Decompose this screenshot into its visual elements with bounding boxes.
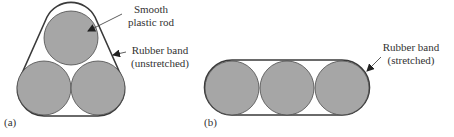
rod-left	[205, 61, 259, 115]
rod-right	[315, 61, 369, 115]
rubber-band-diagram: Smooth plastic rod Rubber band (unstretc…	[0, 0, 454, 137]
rod-bottom-right	[71, 61, 125, 115]
panel-b: Rubber band (stretched) (b)	[204, 41, 440, 129]
panel-b-label: (b)	[204, 116, 217, 129]
label-band-a-line1: Rubber band	[132, 44, 189, 56]
panel-a-label: (a)	[4, 116, 17, 129]
label-rod-line1: Smooth	[134, 3, 169, 15]
label-rod-line2: plastic rod	[128, 16, 175, 28]
rod-bottom-left	[17, 61, 71, 115]
rod-middle	[260, 61, 314, 115]
label-band-a-line2: (unstretched)	[131, 57, 189, 70]
arrow-band-a	[113, 52, 126, 55]
label-band-b-line2: (stretched)	[387, 54, 434, 67]
rod-top	[44, 11, 98, 65]
panel-a: Smooth plastic rod Rubber band (unstretc…	[4, 2, 189, 129]
arrow-band-b	[367, 57, 381, 71]
label-band-b-line1: Rubber band	[383, 41, 440, 53]
